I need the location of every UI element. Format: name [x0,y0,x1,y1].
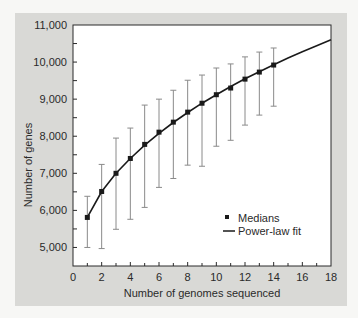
x-tick-label: 18 [325,271,337,283]
median-marker [142,142,147,147]
x-tick-label: 4 [127,271,133,283]
y-tick-label: 10,000 [33,56,67,68]
x-tick-label: 16 [296,271,308,283]
x-tick-label: 8 [185,271,191,283]
y-axis-title: Number of genes [22,122,34,207]
median-marker [171,120,176,125]
median-marker [200,101,205,106]
median-marker [185,110,190,115]
y-tick-label: 9,000 [39,93,67,105]
y-tick-label: 5,000 [39,241,67,253]
y-tick-label: 7,000 [39,167,67,179]
chart: 024681012141618 5,0006,0007,0008,0009,00… [0,0,358,318]
median-marker [228,86,233,91]
legend-label-power-law-fit: Power-law fit [238,225,301,237]
legend-label-medians: Medians [238,212,280,224]
x-tick-label: 12 [239,271,251,283]
median-marker [114,171,119,176]
median-marker [271,63,276,68]
x-tick-label: 14 [268,271,280,283]
x-tick-label: 0 [70,271,76,283]
median-marker [85,215,90,220]
median-marker [243,77,248,82]
x-tick-label: 2 [99,271,105,283]
x-axis-title: Number of genomes sequenced [124,287,281,299]
y-tick-label: 11,000 [34,19,67,31]
legend-median-marker-icon [225,215,229,219]
median-marker [257,70,262,75]
median-marker [128,156,133,161]
median-marker [214,92,219,97]
median-marker [157,130,162,135]
x-tick-label: 6 [156,271,162,283]
y-tick-label: 8,000 [39,130,67,142]
median-marker [99,189,104,194]
y-axis: 5,0006,0007,0008,0009,00010,00011,000 [33,19,77,253]
x-tick-label: 10 [210,271,222,283]
y-tick-label: 6,000 [39,204,67,216]
